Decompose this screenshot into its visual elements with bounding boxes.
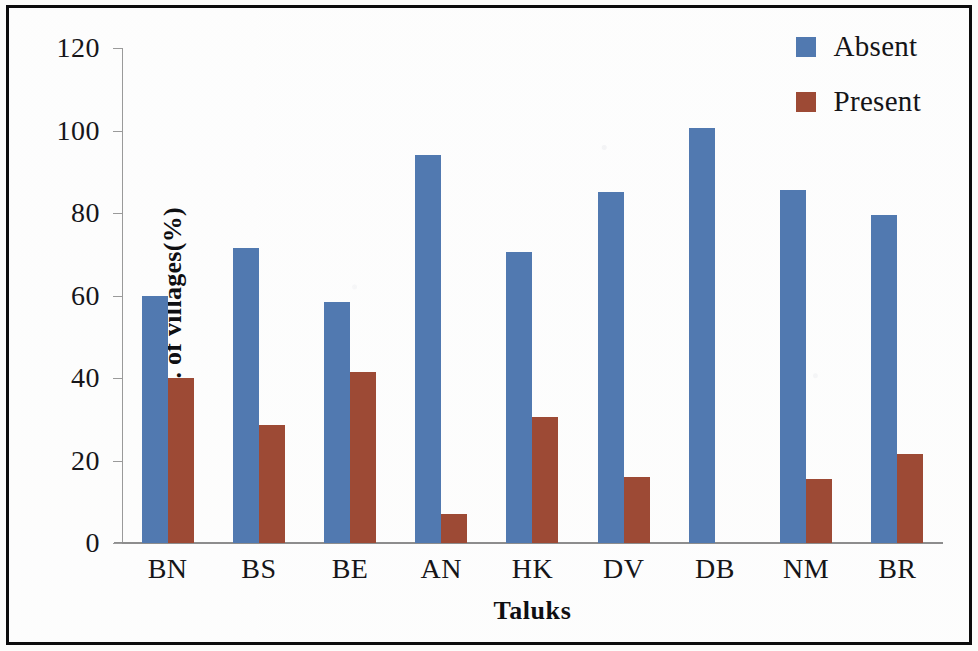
y-axis-tick: 120 [113, 48, 122, 49]
bar-present-hk [532, 417, 558, 543]
x-axis-tick-labels: BNBSBEANHKDVDBNMBR [122, 553, 943, 585]
y-axis-tick-label: 120 [57, 32, 101, 64]
x-axis-tick-label: NM [761, 553, 852, 585]
bar-absent-hk [506, 252, 532, 543]
y-axis-tick: 100 [113, 131, 122, 132]
x-axis-tick-label: BR [852, 553, 943, 585]
x-axis-tick-label: DB [669, 553, 760, 585]
bar-group [669, 48, 760, 543]
bar-absent-bs [233, 248, 259, 543]
bar-group [122, 48, 213, 543]
x-axis-tick-label: BE [304, 553, 395, 585]
bar-present-br [897, 454, 923, 543]
bar-absent-br [871, 215, 897, 543]
bar-absent-be [324, 302, 350, 543]
bar-present-be [350, 372, 376, 543]
x-axis-tick-label: DV [578, 553, 669, 585]
y-axis-tick: 20 [113, 461, 122, 462]
x-axis-tick-label: BS [213, 553, 304, 585]
figure-container: Absent Present No. of villages(%) 020406… [0, 0, 978, 651]
y-axis-tick-label: 60 [71, 280, 100, 312]
y-axis-tick-label: 20 [71, 445, 100, 477]
y-axis-tick-label: 100 [57, 115, 101, 147]
y-axis-tick: 80 [113, 213, 122, 214]
y-axis-tick-label: 40 [71, 362, 100, 394]
x-axis-title: Taluks [122, 596, 943, 626]
bar-absent-nm [780, 190, 806, 543]
bar-group [578, 48, 669, 543]
bar-present-bs [259, 425, 285, 543]
plot-area: 020406080100120 [122, 48, 943, 543]
bar-group [487, 48, 578, 543]
y-axis-tick-label: 0 [86, 527, 101, 559]
bar-absent-an [415, 155, 441, 543]
x-axis-tick-label: HK [487, 553, 578, 585]
bar-present-dv [624, 477, 650, 543]
bar-group [761, 48, 852, 543]
bar-group [852, 48, 943, 543]
bar-present-bn [168, 378, 194, 543]
x-axis-tick-label: AN [396, 553, 487, 585]
bar-group [304, 48, 395, 543]
bar-present-nm [806, 479, 832, 543]
y-axis-tick: 60 [113, 296, 122, 297]
bar-present-an [441, 514, 467, 543]
bar-absent-dv [598, 192, 624, 543]
y-axis-tick-label: 80 [71, 197, 100, 229]
figure-frame: Absent Present No. of villages(%) 020406… [6, 5, 972, 645]
bar-group [396, 48, 487, 543]
bar-absent-bn [142, 296, 168, 544]
bar-absent-db [689, 128, 715, 543]
y-axis-tick: 0 [113, 543, 122, 544]
y-axis-tick: 40 [113, 378, 122, 379]
x-axis-tick-label: BN [122, 553, 213, 585]
bar-groups [122, 48, 943, 543]
bar-group [213, 48, 304, 543]
